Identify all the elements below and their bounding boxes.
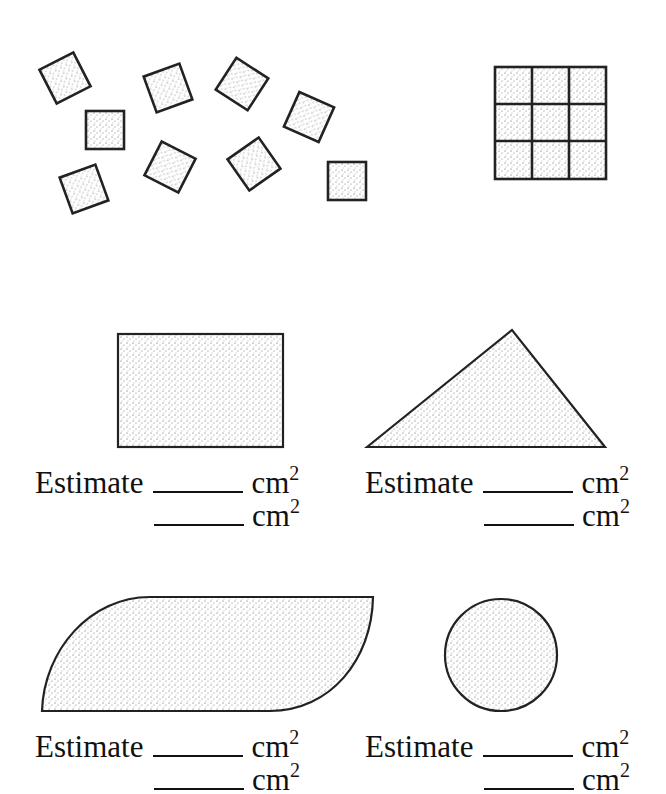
unit-label: cm (251, 729, 289, 764)
unit-label: cm (581, 729, 619, 764)
answer-blank[interactable] (483, 753, 573, 757)
unit-square-grid (495, 67, 606, 179)
unit-exponent: 2 (619, 726, 629, 748)
estimate-line-circle: Estimatecm2 (365, 731, 629, 762)
measured-line-triangle: cm2 (474, 500, 630, 531)
unit-exponent: 2 (619, 462, 629, 484)
answer-blank[interactable] (153, 489, 243, 493)
unit-label: cm (582, 498, 620, 533)
triangle-shape (367, 330, 605, 447)
circle-shape (445, 599, 557, 711)
unit-label: cm (251, 465, 289, 500)
estimate-label: Estimate (35, 465, 143, 500)
answer-blank[interactable] (483, 489, 573, 493)
estimate-label: Estimate (35, 729, 143, 764)
estimate-line-leaf: Estimatecm2 (35, 731, 299, 762)
rectangle-shape (118, 334, 283, 447)
unit-label: cm (581, 465, 619, 500)
measured-line-rectangle: cm2 (144, 500, 300, 531)
measured-line-leaf: cm2 (144, 764, 300, 794)
estimate-line-triangle: Estimatecm2 (365, 467, 629, 498)
unit-exponent: 2 (289, 726, 299, 748)
scattered-unit-squares (39, 52, 366, 213)
answer-blank[interactable] (153, 753, 243, 757)
unit-exponent: 2 (290, 759, 300, 781)
unit-label: cm (252, 762, 290, 794)
measured-line-circle: cm2 (474, 764, 630, 794)
unit-exponent: 2 (620, 759, 630, 781)
answer-blank[interactable] (484, 522, 574, 526)
leaf-shape (42, 597, 373, 711)
estimate-label: Estimate (365, 729, 473, 764)
unit-exponent: 2 (620, 495, 630, 517)
estimate-line-rectangle: Estimatecm2 (35, 467, 299, 498)
unit-exponent: 2 (290, 495, 300, 517)
unit-exponent: 2 (289, 462, 299, 484)
answer-blank[interactable] (154, 786, 244, 790)
unit-label: cm (252, 498, 290, 533)
answer-blank[interactable] (154, 522, 244, 526)
unit-label: cm (582, 762, 620, 794)
estimate-label: Estimate (365, 465, 473, 500)
answer-blank[interactable] (484, 786, 574, 790)
